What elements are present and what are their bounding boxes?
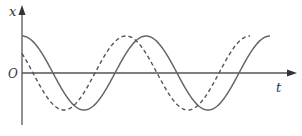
oscillation-graph: x t O [0,0,302,136]
y-axis-label: x [9,4,17,19]
x-axis-label: t [276,80,282,95]
x-axis-arrow-icon [287,70,297,77]
y-axis-arrow-icon [19,5,26,15]
origin-label: O [8,67,18,81]
